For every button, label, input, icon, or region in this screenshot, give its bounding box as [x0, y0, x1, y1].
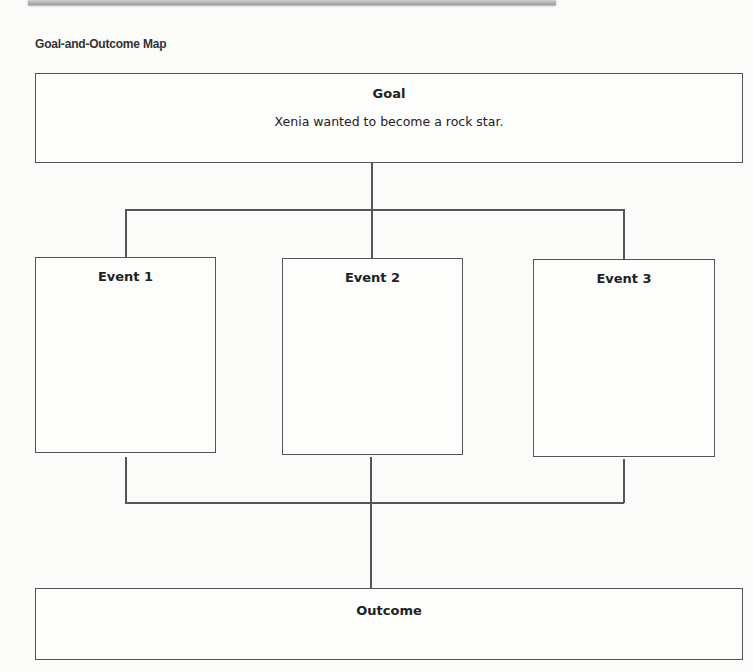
- goal-text[interactable]: Xenia wanted to become a rock star.: [36, 114, 742, 129]
- outcome-label: Outcome: [36, 603, 742, 618]
- connector-bottom-horizontal: [125, 502, 624, 504]
- connector-from-event-3: [623, 459, 625, 503]
- goal-label: Goal: [36, 86, 742, 101]
- event-1-box[interactable]: Event 1: [35, 257, 216, 453]
- event-3-box[interactable]: Event 3: [533, 259, 715, 457]
- connector-from-event-1: [125, 457, 127, 502]
- event-2-label: Event 2: [283, 270, 462, 285]
- event-2-box[interactable]: Event 2: [282, 258, 463, 455]
- event-1-label: Event 1: [36, 269, 215, 284]
- connector-to-event-3: [623, 209, 625, 259]
- event-3-label: Event 3: [534, 271, 714, 286]
- connector-goal-down: [371, 163, 373, 258]
- goal-box[interactable]: Goal Xenia wanted to become a rock star.: [35, 73, 743, 163]
- connector-to-outcome: [370, 457, 372, 589]
- top-bar-shadow: [28, 0, 556, 5]
- page-title: Goal-and-Outcome Map: [35, 37, 166, 51]
- outcome-box[interactable]: Outcome: [35, 588, 743, 660]
- connector-top-horizontal: [125, 209, 624, 211]
- connector-to-event-1: [125, 209, 127, 257]
